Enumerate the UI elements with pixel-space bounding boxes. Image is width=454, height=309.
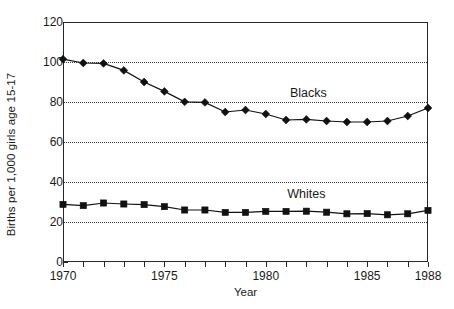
x-tick-mark xyxy=(347,262,348,267)
series-blacks xyxy=(59,55,432,126)
data-point xyxy=(283,208,289,214)
data-point xyxy=(141,202,147,208)
y-tick-label: 40 xyxy=(35,175,63,189)
x-tick-mark xyxy=(225,262,226,267)
data-point xyxy=(424,104,432,112)
data-point xyxy=(161,204,167,210)
x-tick-mark xyxy=(408,262,409,267)
data-point xyxy=(344,211,350,217)
data-point xyxy=(120,67,128,75)
data-point xyxy=(324,209,330,215)
data-point xyxy=(221,108,229,116)
data-point xyxy=(201,99,209,107)
x-tick-mark xyxy=(266,262,267,267)
data-point xyxy=(263,208,269,214)
data-point xyxy=(242,209,248,215)
data-point xyxy=(100,60,108,68)
data-point xyxy=(425,207,431,213)
data-point xyxy=(80,203,86,209)
x-tick-mark xyxy=(124,262,125,267)
x-tick-mark xyxy=(185,262,186,267)
data-point xyxy=(202,207,208,213)
x-axis-ticks: 19701975198019851988 xyxy=(63,262,428,286)
data-point xyxy=(181,98,189,106)
data-point xyxy=(79,59,87,67)
x-tick-label: 1975 xyxy=(151,269,178,283)
x-tick-mark xyxy=(246,262,247,267)
data-point xyxy=(302,116,310,124)
data-point xyxy=(384,117,392,125)
chart-root: Births per 1,000 girls age 15-17 0204060… xyxy=(0,0,454,309)
x-tick-mark xyxy=(205,262,206,267)
y-tick-label: 0 xyxy=(35,255,63,269)
data-point xyxy=(363,118,371,126)
x-tick-label: 1985 xyxy=(354,269,381,283)
data-point xyxy=(160,88,168,96)
x-tick-mark xyxy=(428,262,429,267)
series-layer xyxy=(63,22,428,262)
series-label-whites: Whites xyxy=(287,187,325,201)
y-tick-label: 80 xyxy=(35,95,63,109)
x-tick-mark xyxy=(387,262,388,267)
series-label-blacks: Blacks xyxy=(290,86,327,100)
data-point xyxy=(121,201,127,207)
data-point xyxy=(303,208,309,214)
x-tick-mark xyxy=(306,262,307,267)
series-whites xyxy=(60,200,431,218)
y-axis-title: Births per 1,000 girls age 15-17 xyxy=(0,0,22,309)
data-point xyxy=(404,112,412,120)
x-tick-label: 1980 xyxy=(252,269,279,283)
y-tick-label: 100 xyxy=(35,55,63,69)
data-point xyxy=(242,106,250,114)
x-axis-title: Year xyxy=(63,286,428,298)
y-axis-ticks: 020406080100120 xyxy=(28,22,63,262)
y-tick-label: 20 xyxy=(35,215,63,229)
data-point xyxy=(100,200,106,206)
x-tick-mark xyxy=(367,262,368,267)
x-tick-label: 1970 xyxy=(50,269,77,283)
x-tick-mark xyxy=(63,262,64,267)
x-tick-label: 1988 xyxy=(415,269,442,283)
x-tick-mark xyxy=(164,262,165,267)
x-tick-mark xyxy=(104,262,105,267)
x-tick-mark xyxy=(83,262,84,267)
x-tick-mark xyxy=(144,262,145,267)
data-point xyxy=(262,110,270,118)
data-point xyxy=(140,78,148,86)
data-point xyxy=(282,116,290,124)
data-point xyxy=(323,117,331,125)
x-tick-mark xyxy=(327,262,328,267)
data-point xyxy=(384,212,390,218)
data-point xyxy=(343,118,351,126)
data-point xyxy=(182,207,188,213)
x-tick-mark xyxy=(286,262,287,267)
y-tick-label: 120 xyxy=(35,15,63,29)
data-point xyxy=(222,209,228,215)
y-tick-label: 60 xyxy=(35,135,63,149)
data-point xyxy=(60,201,66,207)
data-point xyxy=(364,211,370,217)
data-point xyxy=(405,211,411,217)
